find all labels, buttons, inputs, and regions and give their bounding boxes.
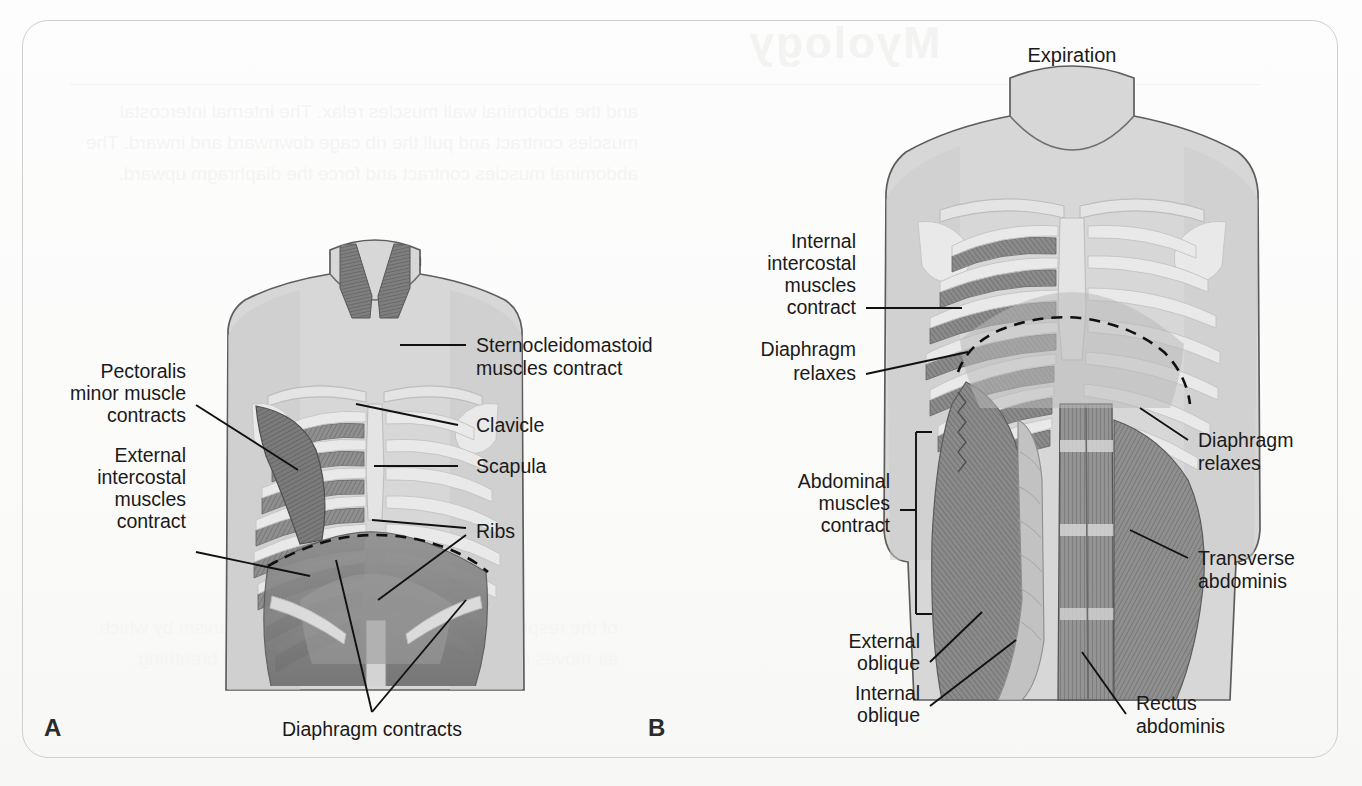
label-diaphragm-relaxes-left-line2: relaxes xyxy=(793,362,856,384)
panel-b: Expiration xyxy=(648,44,1295,741)
label-rectus-line1: Rectus xyxy=(1136,692,1197,714)
label-pectoralis-line1: Pectoralis xyxy=(100,360,186,382)
label-clavicle: Clavicle xyxy=(476,414,544,436)
label-abdominal-line2: muscles xyxy=(818,492,890,514)
label-internal-intercostal-line4: contract xyxy=(787,296,857,318)
label-pectoralis-line3: contracts xyxy=(107,404,186,426)
label-sternocleidomastoid-line2: muscles contract xyxy=(476,357,623,379)
panel-a: Inspiration xyxy=(44,240,653,741)
label-diaphragm-relaxes-left-line1: Diaphragm xyxy=(761,338,856,360)
label-external-intercostal-line2: intercostal xyxy=(97,466,186,488)
label-internal-intercostal-line1: Internal xyxy=(791,230,856,252)
label-internal-oblique: Internal oblique xyxy=(855,682,920,726)
label-pectoralis-line2: minor muscle xyxy=(70,382,186,404)
label-sternocleidomastoid: Sternocleidomastoid muscles contract xyxy=(476,334,653,379)
figure-page: Myology and the abdominal wall muscles r… xyxy=(0,0,1362,786)
label-scapula: Scapula xyxy=(476,455,547,477)
label-external-intercostal: External intercostal muscles contract xyxy=(97,444,186,532)
panel-a-letter: A xyxy=(44,714,61,741)
label-diaphragm-relaxes-left: Diaphragm relaxes xyxy=(761,338,857,384)
label-ribs: Ribs xyxy=(476,520,515,542)
label-external-intercostal-line4: contract xyxy=(117,510,187,532)
label-external-intercostal-line1: External xyxy=(114,444,186,466)
label-transverse-line1: Transverse xyxy=(1198,547,1295,569)
label-external-oblique: External oblique xyxy=(848,630,920,674)
label-transverse-abdominis: Transverse abdominis xyxy=(1198,547,1295,592)
label-diaphragm-relaxes-right-line1: Diaphragm xyxy=(1198,429,1293,451)
label-diaphragm-contracts: Diaphragm contracts xyxy=(282,718,462,740)
anatomy-illustration: Inspiration xyxy=(0,0,1362,786)
label-external-intercostal-line3: muscles xyxy=(114,488,186,510)
label-diaphragm-relaxes-right: Diaphragm relaxes xyxy=(1198,429,1293,474)
label-abdominal-muscles: Abdominal muscles contract xyxy=(798,470,891,536)
label-internal-intercostal-line2: intercostal xyxy=(767,252,856,274)
label-abdominal-line3: contract xyxy=(821,514,891,536)
label-internal-intercostal-line3: muscles xyxy=(784,274,856,296)
panel-b-anatomy xyxy=(918,199,1226,700)
label-rectus-line2: abdominis xyxy=(1136,715,1225,737)
label-internal-oblique-line1: Internal xyxy=(855,682,920,704)
label-diaphragm-relaxes-right-line2: relaxes xyxy=(1198,452,1261,474)
label-pectoralis-minor: Pectoralis minor muscle contracts xyxy=(70,360,186,426)
label-abdominal-line1: Abdominal xyxy=(798,470,890,492)
label-sternocleidomastoid-line1: Sternocleidomastoid xyxy=(476,334,653,356)
label-external-oblique-line1: External xyxy=(848,630,920,652)
label-internal-intercostal: Internal intercostal muscles contract xyxy=(767,230,856,318)
panel-b-letter: B xyxy=(648,714,665,741)
label-external-oblique-line2: oblique xyxy=(857,652,920,674)
label-internal-oblique-line2: oblique xyxy=(857,704,920,726)
sternum xyxy=(366,404,384,520)
label-transverse-line2: abdominis xyxy=(1198,570,1287,592)
panel-b-title: Expiration xyxy=(1028,44,1117,66)
